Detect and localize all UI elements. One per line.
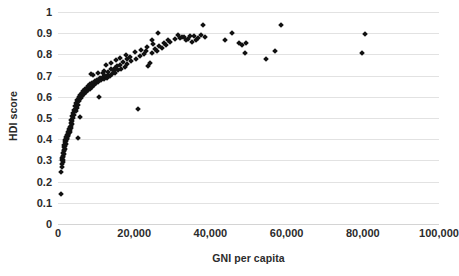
- y-axis-tick-label: 0.5: [37, 113, 52, 124]
- y-axis-tick-label: 0.7: [37, 70, 52, 81]
- data-point: [278, 22, 284, 28]
- y-axis-tick-label: 1: [46, 7, 52, 18]
- data-point: [362, 31, 368, 37]
- y-axis-tick-label: 0.4: [37, 134, 52, 145]
- plot-area: [58, 12, 439, 224]
- gridline: [58, 54, 439, 55]
- gridline: [58, 224, 439, 225]
- y-axis-tick-labels: 00.10.20.30.40.50.60.70.80.91: [24, 12, 55, 224]
- x-axis-tick-label: 100,000: [419, 228, 459, 239]
- data-point: [222, 38, 228, 44]
- gridline: [58, 160, 439, 161]
- gridline: [58, 118, 439, 119]
- x-axis-tick-label: 0: [55, 228, 61, 239]
- y-axis-tick-label: 0: [46, 219, 52, 230]
- data-point: [230, 30, 236, 36]
- x-axis-tick-label: 80,000: [346, 228, 380, 239]
- data-point: [202, 34, 208, 40]
- gridline: [58, 139, 439, 140]
- gridline: [58, 76, 439, 77]
- data-point: [243, 40, 249, 46]
- data-point: [75, 136, 81, 142]
- data-point: [77, 115, 83, 121]
- x-axis-tick-labels: 020,00040,00060,00080,000100,000: [58, 228, 439, 246]
- data-point: [59, 170, 65, 176]
- y-axis-tick-label: 0.8: [37, 49, 52, 60]
- x-axis-tick-label: 20,000: [117, 228, 151, 239]
- gridline: [58, 12, 439, 13]
- y-axis-title: HDI score: [2, 0, 24, 232]
- gridline: [58, 33, 439, 34]
- x-axis-tick-label: 60,000: [270, 228, 304, 239]
- data-point: [200, 22, 206, 28]
- data-point: [155, 30, 161, 36]
- data-point: [272, 48, 278, 54]
- y-axis-tick-label: 0.2: [37, 176, 52, 187]
- gridline: [58, 182, 439, 183]
- data-point: [263, 57, 269, 63]
- gridline: [58, 97, 439, 98]
- data-point: [96, 94, 102, 100]
- y-axis-tick-label: 0.3: [37, 155, 52, 166]
- data-point: [135, 106, 141, 112]
- x-axis-title: GNI per capita: [58, 252, 439, 264]
- gridline: [58, 203, 439, 204]
- y-axis-tick-label: 0.9: [37, 28, 52, 39]
- y-axis-tick-label: 0.6: [37, 91, 52, 102]
- x-axis-tick-label: 40,000: [194, 228, 228, 239]
- data-point: [58, 191, 64, 197]
- data-point: [144, 44, 150, 50]
- y-axis-tick-label: 0.1: [37, 197, 52, 208]
- y-axis-title-label: HDI score: [7, 91, 19, 141]
